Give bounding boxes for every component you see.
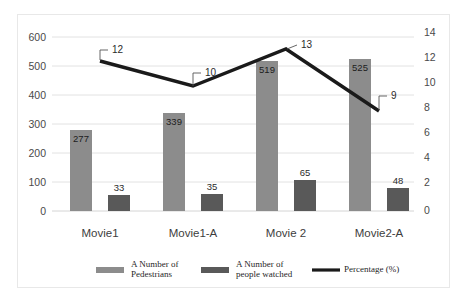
line-value-label: 9 (391, 90, 397, 101)
legend-swatch-icon (96, 267, 124, 273)
bar-group-movie1: 277 33 (70, 130, 130, 211)
bar-value-label: 35 (207, 181, 218, 192)
line-label-group-1: 12 (100, 44, 124, 60)
left-axis: 600 500 400 300 200 100 0 (28, 31, 46, 217)
right-tick-label: 14 (424, 26, 436, 38)
bar-value-label: 339 (166, 116, 182, 127)
legend-swatch-icon (201, 267, 229, 273)
category-label: Movie 2 (266, 227, 306, 239)
percentage-line[interactable] (100, 49, 379, 111)
bar-group-movie1-a: 339 35 (163, 113, 223, 211)
legend-label-line2: Pedestrians (131, 269, 172, 279)
bar-value-label: 33 (114, 182, 125, 193)
left-tick-label: 600 (28, 31, 46, 43)
bar-value-label: 48 (393, 175, 404, 186)
category-label: Movie2-A (355, 227, 404, 239)
line-value-label: 12 (112, 44, 124, 55)
bar-people-watched[interactable] (387, 188, 409, 211)
right-tick-label: 10 (424, 76, 436, 88)
legend-label-line1: Percentage (%) (344, 264, 399, 274)
bar-people-watched[interactable] (201, 194, 223, 211)
left-tick-label: 0 (40, 205, 46, 217)
category-label: Movie1 (81, 227, 118, 239)
category-label: Movie1-A (169, 227, 218, 239)
legend-label-line1: A Number of (131, 259, 179, 269)
bar-pedestrians[interactable] (163, 113, 185, 211)
bar-value-label: 519 (259, 64, 275, 75)
right-axis: 14 12 10 8 6 4 2 0 (424, 26, 436, 216)
bar-group-movie2: 519 65 (256, 61, 316, 211)
legend-item-people-watched[interactable]: A Number of people watched (201, 259, 293, 279)
bar-value-label: 525 (352, 62, 368, 73)
right-tick-label: 8 (424, 101, 430, 113)
left-tick-label: 200 (28, 147, 46, 159)
bar-people-watched[interactable] (108, 195, 130, 211)
bar-people-watched[interactable] (294, 180, 316, 211)
line-label-group-3: 13 (287, 39, 313, 50)
left-tick-label: 300 (28, 118, 46, 130)
right-tick-label: 6 (424, 126, 430, 138)
legend-item-percentage[interactable]: Percentage (%) (312, 264, 399, 274)
legend-item-pedestrians[interactable]: A Number of Pedestrians (96, 259, 179, 279)
right-tick-label: 12 (424, 51, 436, 63)
right-tick-label: 0 (424, 204, 430, 216)
left-tick-label: 400 (28, 89, 46, 101)
bar-value-label: 277 (73, 133, 89, 144)
x-axis-categories: Movie1 Movie1-A Movie 2 Movie2-A (81, 227, 403, 239)
chart-container: 600 500 400 300 200 100 0 14 12 10 8 6 4… (0, 0, 466, 307)
legend-label-line1: A Number of (236, 259, 284, 269)
bar-pedestrians[interactable] (256, 61, 278, 211)
right-tick-label: 4 (424, 151, 430, 163)
line-value-label: 13 (301, 39, 313, 50)
right-tick-label: 2 (424, 176, 430, 188)
chart-svg: 600 500 400 300 200 100 0 14 12 10 8 6 4… (0, 0, 466, 307)
legend-label-line2: people watched (236, 269, 293, 279)
line-value-label: 10 (205, 67, 217, 78)
bar-value-label: 65 (300, 167, 311, 178)
left-tick-label: 100 (28, 176, 46, 188)
left-tick-label: 500 (28, 60, 46, 72)
bar-group-movie2-a: 525 48 (349, 59, 409, 211)
chart-legend: A Number of Pedestrians A Number of peop… (96, 259, 399, 279)
bar-pedestrians[interactable] (349, 59, 371, 211)
line-label-group-4: 9 (379, 90, 397, 110)
